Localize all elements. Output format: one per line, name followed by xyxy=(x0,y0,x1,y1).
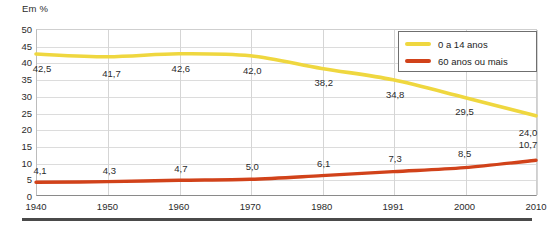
data-label-60-plus-1960: 4,7 xyxy=(174,163,187,174)
legend-swatch-0-14 xyxy=(405,42,431,46)
y-axis-tick-25: 25 xyxy=(21,107,32,118)
x-axis-tick-1991: 1991 xyxy=(383,201,404,212)
gridline-vertical xyxy=(537,30,538,195)
data-label-60-plus-1970: 5,0 xyxy=(246,161,259,172)
y-axis-tick-50: 50 xyxy=(21,24,32,35)
x-axis-tick-1980: 1980 xyxy=(311,201,332,212)
data-label-60-plus-2010: 10,7 xyxy=(519,139,538,150)
data-label-0-14-1980: 38,2 xyxy=(314,77,333,88)
y-axis-unit-label: Em % xyxy=(22,3,48,14)
data-label-60-plus-1950: 4,3 xyxy=(103,165,116,176)
data-label-60-plus-1940: 4,1 xyxy=(33,165,46,176)
legend-item-60-plus: 60 anos ou mais xyxy=(405,53,530,69)
y-axis-tick-35: 35 xyxy=(21,74,32,85)
y-axis-tick-5: 5 xyxy=(27,174,32,185)
y-axis-tick-40: 40 xyxy=(21,57,32,68)
x-axis-tick-1960: 1960 xyxy=(168,201,189,212)
legend-label-60-plus: 60 anos ou mais xyxy=(438,56,508,67)
data-label-0-14-1991: 34,8 xyxy=(386,89,405,100)
legend-item-0-14: 0 a 14 anos xyxy=(405,36,530,52)
data-label-60-plus-2000: 8,5 xyxy=(458,148,471,159)
y-axis-tick-labels: 05101520253035404550 xyxy=(0,29,34,196)
data-label-0-14-2010: 24,0 xyxy=(519,127,538,138)
y-axis-tick-0: 0 xyxy=(27,191,32,202)
legend: 0 a 14 anos 60 anos ou mais xyxy=(398,31,537,72)
data-label-60-plus-1991: 7,3 xyxy=(389,153,402,164)
legend-label-0-14: 0 a 14 anos xyxy=(438,39,488,50)
y-axis-tick-15: 15 xyxy=(21,140,32,151)
y-axis-tick-10: 10 xyxy=(21,157,32,168)
x-axis-tick-2000: 2000 xyxy=(454,201,475,212)
y-axis-tick-20: 20 xyxy=(21,124,32,135)
data-label-60-plus-1980: 6,1 xyxy=(317,158,330,169)
x-axis-tick-1970: 1970 xyxy=(240,201,261,212)
x-axis-tick-2010: 2010 xyxy=(525,201,546,212)
data-label-0-14-1960: 42,6 xyxy=(172,63,191,74)
x-axis-tick-1950: 1950 xyxy=(97,201,118,212)
y-axis-tick-30: 30 xyxy=(21,90,32,101)
data-label-0-14-1940: 42,5 xyxy=(33,63,52,74)
x-axis-tick-1940: 1940 xyxy=(25,201,46,212)
y-axis-tick-45: 45 xyxy=(21,40,32,51)
data-label-0-14-1950: 41,7 xyxy=(102,68,121,79)
data-label-0-14-1970: 42,0 xyxy=(243,65,262,76)
data-label-0-14-2000: 29,5 xyxy=(455,106,474,117)
bottom-rule xyxy=(22,218,532,221)
legend-swatch-60-plus xyxy=(405,59,431,63)
